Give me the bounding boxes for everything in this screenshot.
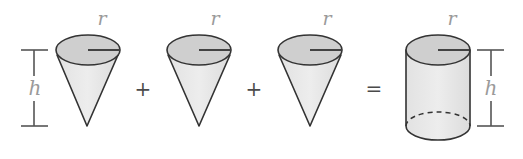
radius-label-cylinder: r: [447, 7, 458, 29]
cone-2: [167, 35, 231, 126]
height-label-left: h: [29, 76, 42, 100]
cylinder: [406, 35, 470, 140]
cones-cylinder-diagram: h r + r + r = r h: [0, 0, 523, 159]
radius-label-cone-1: r: [97, 7, 108, 29]
radius-label-cone-2: r: [210, 7, 221, 29]
cone-1: [56, 35, 120, 126]
radius-label-cone-3: r: [322, 7, 333, 29]
cone-3: [278, 35, 342, 126]
plus-operator-2: +: [246, 77, 263, 101]
equals-operator: =: [366, 77, 383, 101]
plus-operator-1: +: [135, 77, 152, 101]
height-label-right: h: [485, 76, 498, 100]
